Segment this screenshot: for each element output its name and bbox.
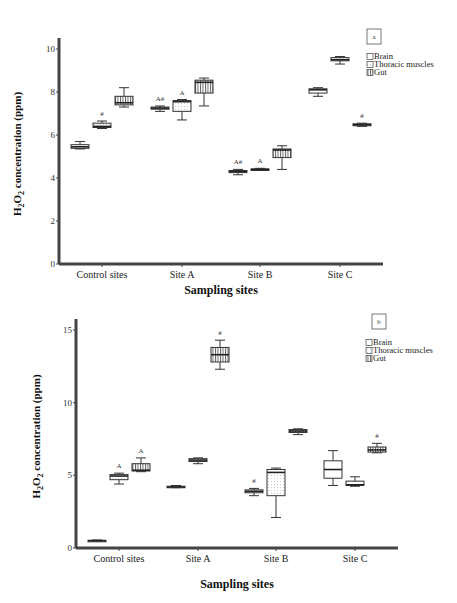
x-axis-label: Sampling sites (184, 283, 258, 297)
y-tick-label: 8 (51, 87, 56, 97)
legend-swatch (366, 348, 372, 354)
box-brain: A# (229, 158, 247, 174)
significance-annotation: A (179, 89, 184, 97)
y-tick-label: 0 (68, 543, 73, 553)
box-thoracic-muscles (331, 57, 349, 65)
y-tick-label: 6 (51, 130, 56, 140)
y-axis-label: H2O2 concentration (ppm) (30, 374, 45, 498)
legend-swatch (367, 62, 373, 68)
box-iqr (267, 470, 285, 496)
significance-annotation: A# (156, 95, 165, 103)
panel-a: 0246810Control sitesSite ASite BSite CSa… (11, 29, 434, 297)
legend-swatch (366, 340, 372, 346)
x-tick-label: Site B (248, 269, 273, 280)
box-thoracic-muscles (267, 468, 285, 517)
x-tick-label: Site C (328, 269, 353, 280)
box-gut: A (132, 447, 150, 472)
box-thoracic-muscles: A (110, 462, 128, 484)
box-thoracic-muscles (189, 458, 207, 464)
significance-annotation: # (218, 329, 222, 337)
box-brain: A# (151, 95, 169, 111)
significance-annotation: # (100, 110, 104, 118)
box-gut: # (368, 432, 386, 452)
significance-annotation: # (375, 432, 379, 440)
x-axis-label: Sampling sites (200, 577, 274, 591)
box-iqr (115, 96, 133, 105)
x-tick-label: Site C (343, 553, 368, 564)
box-gut (195, 78, 213, 106)
box-gut (289, 429, 307, 435)
box-thoracic-muscles: A (251, 157, 269, 170)
x-tick-label: Site A (170, 269, 196, 280)
x-tick-label: Site A (186, 553, 212, 564)
y-tick-label: 15 (63, 325, 73, 335)
box-brain (167, 486, 185, 488)
box-brain: # (245, 477, 263, 495)
y-tick-label: 2 (51, 216, 56, 226)
legend-label: Gut (374, 67, 387, 77)
box-brain (88, 540, 106, 542)
x-tick-label: Control sites (77, 269, 128, 280)
box-brain (324, 451, 342, 486)
significance-annotation: # (360, 112, 364, 120)
significance-annotation: A (257, 157, 262, 165)
y-tick-label: 4 (51, 173, 56, 183)
box-thoracic-muscles: A (173, 89, 191, 120)
box-gut (273, 146, 291, 170)
box-brain (309, 88, 327, 97)
significance-annotation: A (116, 462, 121, 470)
box-gut (115, 88, 133, 107)
legend-swatch (367, 70, 373, 76)
box-thoracic-muscles (346, 477, 364, 486)
panel-label: b (377, 318, 381, 326)
box-gut: # (353, 112, 371, 126)
y-axis-label: H2O2 concentration (ppm) (11, 92, 26, 216)
significance-annotation: A# (234, 158, 243, 166)
significance-annotation: # (252, 477, 256, 485)
box-brain (71, 141, 89, 149)
box-gut: # (211, 329, 229, 369)
legend-label: Gut (373, 353, 386, 363)
x-tick-label: Control sites (94, 553, 145, 564)
y-tick-label: 5 (68, 470, 73, 480)
legend-swatch (367, 54, 373, 60)
box-thoracic-muscles: # (93, 110, 111, 129)
y-tick-label: 0 (51, 259, 56, 269)
significance-annotation: A (138, 447, 143, 455)
box-plot-figure: 0246810Control sitesSite ASite BSite CSa… (0, 0, 457, 603)
x-tick-label: Site B (264, 553, 289, 564)
panel-b: 051015Control sitesSite ASite BSite CSam… (30, 314, 433, 591)
y-tick-label: 10 (63, 398, 73, 408)
legend-swatch (366, 356, 372, 362)
y-tick-label: 10 (46, 44, 56, 54)
